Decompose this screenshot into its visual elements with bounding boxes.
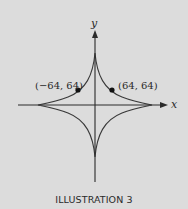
figure-caption: ILLUSTRATION 3 [0, 194, 188, 205]
x-axis-arrow-icon [160, 102, 168, 108]
point-64-64 [109, 87, 114, 92]
point-label-left: (−64, 64) [35, 81, 83, 91]
y-axis-label: y [91, 18, 97, 29]
point-label-right: (64, 64) [118, 81, 158, 91]
astroid-graph [0, 0, 188, 209]
astroid-figure: y x (−64, 64) (64, 64) ILLUSTRATION 3 [0, 0, 188, 209]
x-axis-label: x [171, 99, 177, 110]
y-axis-arrow-icon [92, 30, 98, 38]
